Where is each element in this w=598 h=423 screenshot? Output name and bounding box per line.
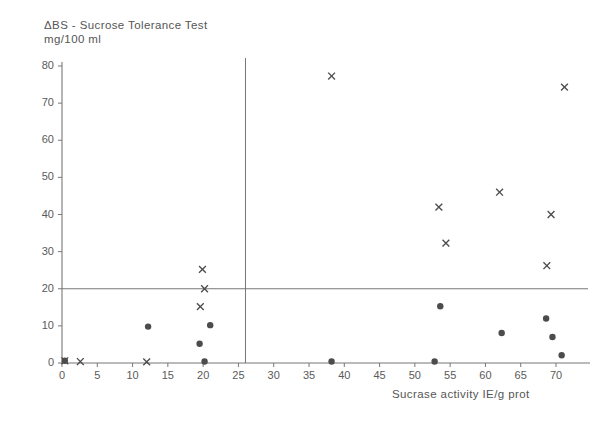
data-point-cross [328, 73, 335, 80]
y-tick-label: 40 [24, 208, 54, 220]
data-point-cross [77, 358, 84, 365]
x-axis-title: Sucrase activity IE/g prot [392, 388, 530, 400]
x-tick-label: 10 [119, 369, 147, 381]
y-tick-label: 20 [24, 282, 54, 294]
x-tick-label: 70 [542, 369, 570, 381]
x-tick-label: 20 [189, 369, 217, 381]
y-tick-label: 50 [24, 170, 54, 182]
x-tick-label: 45 [366, 369, 394, 381]
x-tick-label: 55 [436, 369, 464, 381]
data-point-circle [558, 352, 564, 358]
data-point-circle [437, 303, 443, 309]
x-tick-label: 35 [295, 369, 323, 381]
y-axis-unit-label: mg/100 ml [44, 32, 208, 46]
y-tick-label: 0 [24, 356, 54, 368]
data-point-circle [207, 322, 213, 328]
page-title: ΔBS - Sucrose Tolerance Test [44, 18, 208, 32]
y-tick-label: 10 [24, 319, 54, 331]
x-tick-label: 15 [154, 369, 182, 381]
data-point-cross [199, 266, 206, 273]
x-tick-label: 25 [224, 369, 252, 381]
scatter-plot-figure: ΔBS - Sucrose Tolerance Test mg/100 ml 0… [0, 0, 598, 423]
axes-group [58, 62, 590, 367]
data-point-cross [496, 189, 503, 196]
x-tick-label: 50 [401, 369, 429, 381]
data-point-cross [561, 84, 568, 91]
x-tick-label: 65 [507, 369, 535, 381]
data-point-cross [543, 262, 550, 269]
data-point-cross [143, 358, 150, 365]
x-tick-label: 0 [48, 369, 76, 381]
chart-title-block: ΔBS - Sucrose Tolerance Test mg/100 ml [44, 18, 208, 47]
data-point-circle [145, 323, 151, 329]
plot-canvas [0, 0, 598, 423]
y-tick-label: 80 [24, 59, 54, 71]
data-point-circle [543, 315, 549, 321]
data-point-cross [197, 303, 204, 310]
x-tick-label: 60 [471, 369, 499, 381]
data-points-group [61, 73, 567, 366]
data-point-cross [548, 211, 555, 218]
data-point-circle [328, 358, 334, 364]
data-point-circle [196, 340, 202, 346]
data-point-circle [62, 358, 68, 364]
data-point-circle [498, 330, 504, 336]
x-tick-label: 5 [83, 369, 111, 381]
x-tick-label: 40 [330, 369, 358, 381]
data-point-circle [549, 334, 555, 340]
y-tick-label: 70 [24, 96, 54, 108]
data-point-cross [435, 204, 442, 211]
data-point-cross [443, 240, 450, 247]
data-point-circle [431, 358, 437, 364]
x-tick-label: 30 [260, 369, 288, 381]
reference-lines-group [62, 58, 588, 363]
y-tick-label: 60 [24, 133, 54, 145]
y-tick-label: 30 [24, 245, 54, 257]
data-point-circle [201, 358, 207, 364]
